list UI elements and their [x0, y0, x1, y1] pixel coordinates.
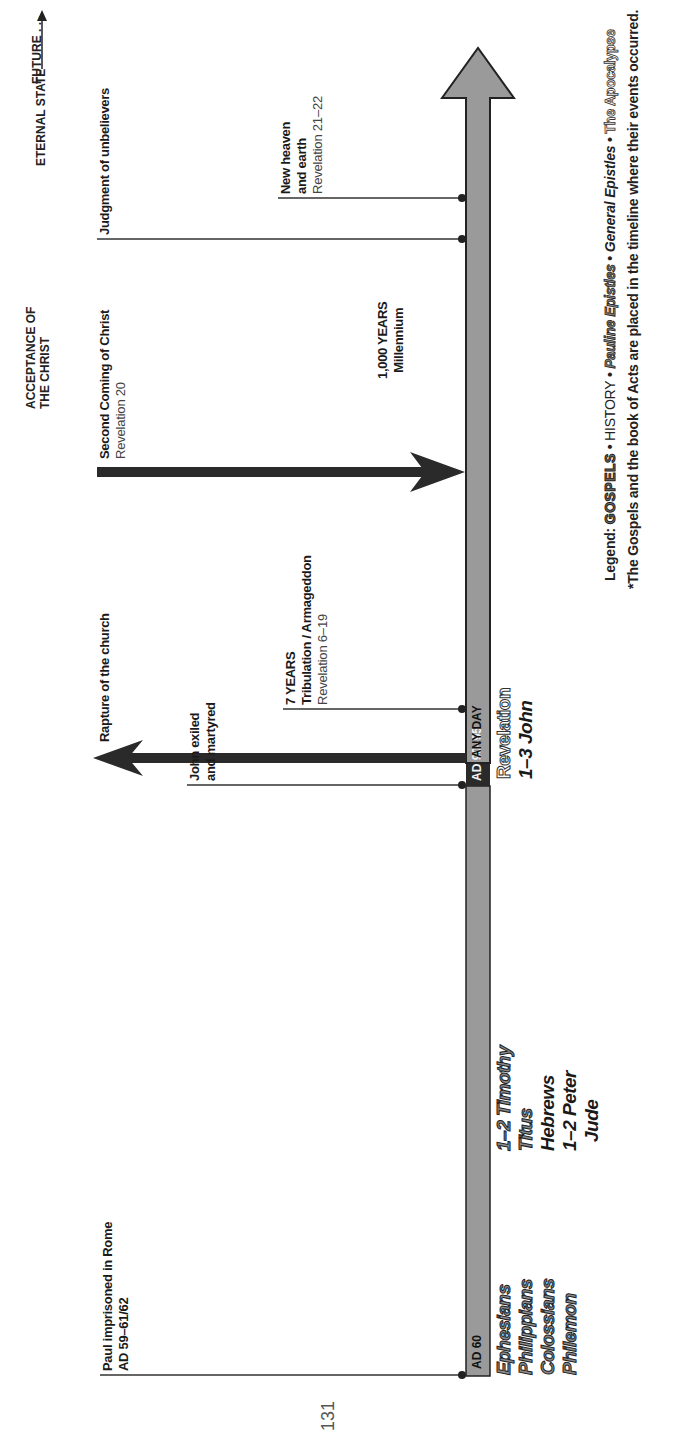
second-coming-arrow: [97, 452, 465, 492]
page-number: 131: [318, 1401, 339, 1431]
event-millennium-title: Millennium: [391, 302, 407, 379]
event-john-line1: John exiled: [187, 702, 203, 781]
event-rapture: Rapture of the church: [97, 613, 113, 742]
legend-general: General Epistles: [602, 146, 618, 253]
book-hebrews: Hebrews: [537, 1046, 559, 1151]
book-philippians: Philippians: [515, 1279, 537, 1375]
event-new-heaven-line2: and earth: [294, 96, 310, 194]
event-second-coming-title: Second Coming of Christ: [97, 310, 113, 459]
event-tribulation-years: 7 YEARS: [283, 555, 299, 705]
event-tribulation: 7 YEARS Tribulation / Armageddon Revelat…: [283, 555, 331, 705]
event-tribulation-ref: Revelation 6–19: [315, 555, 331, 705]
event-paul-date: AD 59–61/62: [116, 1222, 132, 1371]
header-acceptance-line1: ACCEPTANCE OF: [24, 307, 38, 409]
header-acceptance-line2: THE CHRIST: [38, 307, 52, 409]
event-judgment-title: Judgment of unbelievers: [97, 88, 113, 235]
rapture-arrow: [93, 740, 466, 776]
book-john-epistles: 1–3 John: [515, 688, 537, 779]
event-john: John exiled and martyred: [187, 702, 219, 781]
event-markers: [97, 198, 462, 1375]
event-dots: [458, 194, 466, 1379]
bar-segment-ad60: [466, 786, 490, 1376]
event-second-coming: Second Coming of Christ Revelation 20: [97, 310, 129, 459]
event-new-heaven-line1: New heaven: [278, 96, 294, 194]
bar-label-any-day: ANY DAY: [470, 705, 484, 758]
event-rapture-title: Rapture of the church: [97, 613, 113, 742]
book-titus: Titus: [515, 1046, 537, 1151]
books-ad90: Revelation 1–3 John: [493, 688, 537, 779]
legend-separator: •: [602, 256, 618, 261]
book-revelation: Revelation: [493, 688, 515, 779]
event-judgment: Judgment of unbelievers: [97, 88, 113, 235]
bar-segment-future: [442, 48, 514, 763]
legend-apocalypse: The Apocalypse: [602, 30, 618, 134]
book-timothy: 1–2 Timothy: [493, 1046, 515, 1151]
legend-pauline: Pauline Epistles: [602, 264, 618, 368]
event-tribulation-title: Tribulation / Armageddon: [299, 555, 315, 705]
legend-separator: •: [602, 372, 618, 377]
legend-gospels: GOSPELS: [602, 453, 618, 524]
event-paul-title: Paul imprisoned in Rome: [100, 1222, 116, 1371]
event-millennium: 1,000 YEARS Millennium: [375, 302, 407, 379]
event-john-line2: and martyred: [203, 702, 219, 781]
book-colossians: Colossians: [537, 1279, 559, 1375]
legend-separator: •: [602, 445, 618, 450]
books-ad60-col1: Ephesians Philippians Colossians Philemo…: [493, 1279, 581, 1375]
book-ephesians: Ephesians: [493, 1279, 515, 1375]
book-peter: 1–2 Peter: [559, 1046, 581, 1151]
book-philemon: Philemon: [559, 1279, 581, 1375]
book-jude: Jude: [581, 1046, 603, 1151]
header-eternal-state: ETERNAL STATE: [34, 69, 48, 166]
legend-prefix: Legend:: [602, 528, 618, 581]
legend-footnote: *The Gospels and the book of Acts are pl…: [625, 10, 641, 589]
legend-history: HISTORY: [602, 381, 618, 441]
event-paul: Paul imprisoned in Rome AD 59–61/62: [100, 1222, 132, 1371]
legend-separator: •: [602, 137, 618, 142]
legend: Legend: GOSPELS • HISTORY • Pauline Epis…: [602, 30, 618, 581]
event-new-heaven-ref: Revelation 21–22: [310, 96, 326, 194]
books-ad60-col2: 1–2 Timothy Titus Hebrews 1–2 Peter Jude: [493, 1046, 603, 1151]
event-millennium-years: 1,000 YEARS: [375, 302, 391, 379]
event-second-coming-ref: Revelation 20: [113, 310, 129, 459]
event-new-heaven: New heaven and earth Revelation 21–22: [278, 96, 326, 194]
bar-label-ad60: AD 60: [470, 1335, 484, 1369]
header-acceptance: ACCEPTANCE OF THE CHRIST: [24, 307, 52, 409]
